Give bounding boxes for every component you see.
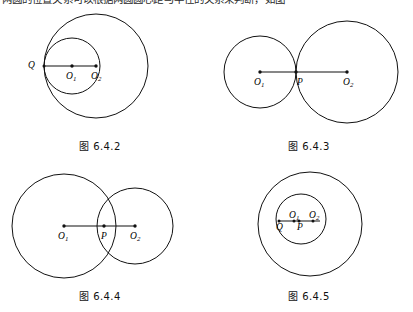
label-o2: O2 <box>91 72 101 82</box>
label-o1-text: O <box>58 231 65 241</box>
label-o1-sub: 1 <box>73 75 76 82</box>
point-p-dot <box>294 70 297 73</box>
figure-6-4-5: O1 O2 Q P 图 6.4.5 <box>205 155 413 312</box>
label-o1: O1 <box>66 72 76 82</box>
label-q: Q <box>28 61 35 71</box>
textbook-figure-page: 两圆的位置关系可以根据两圆圆心距与半径的关系来判断，如图 Q O1 O2 图 6… <box>0 0 413 312</box>
figure-6-4-3: O1 P O2 图 6.4.3 <box>205 0 413 155</box>
label-o1: O1 <box>58 232 68 242</box>
figure-6-4-4: O1 P O2 图 6.4.4 <box>0 155 200 312</box>
label-p: P <box>101 232 107 242</box>
label-o2-sub: 2 <box>137 235 140 242</box>
label-o2: O2 <box>343 78 353 88</box>
point-p-dot <box>102 224 105 227</box>
label-o2-text: O <box>343 77 350 87</box>
label-o2: O2 <box>130 232 140 242</box>
label-p-text: P <box>297 222 303 232</box>
label-o2-text: O <box>130 231 137 241</box>
label-q: Q <box>276 223 283 233</box>
outer-circle <box>258 172 362 276</box>
label-o1-sub: 1 <box>261 81 264 88</box>
figure-6-4-3-canvas <box>205 0 413 140</box>
point-o1-dot <box>258 70 261 73</box>
figure-6-4-4-caption: 图 6.4.4 <box>0 288 200 303</box>
point-o1-dot <box>62 224 65 227</box>
point-o2-dot <box>94 64 97 67</box>
label-q-text: Q <box>28 60 35 70</box>
figure-6-4-5-caption: 图 6.4.5 <box>205 288 413 303</box>
label-o2-sub: 2 <box>316 214 319 221</box>
figure-6-4-4-canvas <box>0 155 200 285</box>
figure-6-4-2-caption: 图 6.4.2 <box>0 138 200 153</box>
label-o2-text: O <box>309 210 316 220</box>
label-p-text: P <box>101 231 107 241</box>
label-p: P <box>297 223 303 233</box>
label-o1-sub: 1 <box>65 235 68 242</box>
label-o1: O1 <box>254 78 264 88</box>
label-p-text: P <box>297 77 303 87</box>
label-o2: O2 <box>309 211 319 221</box>
label-o1-text: O <box>254 77 261 87</box>
point-o2-dot <box>345 70 348 73</box>
point-o1-dot <box>70 64 73 67</box>
label-o2-sub: 2 <box>350 81 353 88</box>
label-o2-text: O <box>91 71 98 81</box>
point-o2-dot <box>133 224 136 227</box>
label-o1: O1 <box>289 211 299 221</box>
label-o1-text: O <box>289 210 296 220</box>
point-q-dot <box>43 65 46 68</box>
label-p: P <box>297 78 303 88</box>
figure-6-4-2: Q O1 O2 图 6.4.2 <box>0 0 200 155</box>
label-q-text: Q <box>276 222 283 232</box>
figure-6-4-3-caption: 图 6.4.3 <box>205 138 413 153</box>
label-o2-sub: 2 <box>98 75 101 82</box>
label-o1-text: O <box>66 71 73 81</box>
label-o1-sub: 1 <box>296 214 299 221</box>
